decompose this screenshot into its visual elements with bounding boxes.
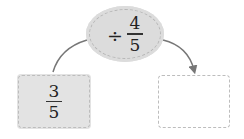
right-connector-arrow [163, 40, 194, 70]
left-connector-line [53, 40, 87, 72]
answer-box[interactable] [157, 74, 231, 129]
input-numerator: 3 [49, 82, 60, 100]
input-denominator: 5 [49, 103, 60, 121]
operation-ellipse: ÷ 4 5 [86, 6, 164, 62]
operand-denominator: 5 [130, 36, 141, 54]
operand-numerator: 4 [130, 14, 141, 32]
division-sign: ÷ [107, 26, 123, 45]
fraction-division-diagram: ÷ 4 5 3 5 [0, 0, 244, 139]
input-box: 3 5 [17, 74, 91, 129]
input-fraction: 3 5 [46, 82, 62, 122]
operand-fraction: 4 5 [127, 14, 143, 54]
